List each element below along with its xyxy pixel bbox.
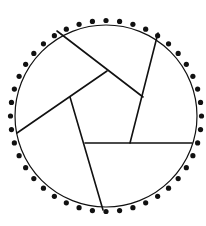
perimeter-dot (41, 41, 46, 46)
perimeter-dot (130, 205, 135, 210)
perimeter-dot (31, 51, 36, 56)
perimeter-dot (52, 33, 57, 38)
perimeter-dot (52, 194, 57, 199)
perimeter-dot (103, 18, 108, 23)
perimeter-dot (23, 62, 28, 67)
perimeter-dot (90, 19, 95, 24)
perimeter-dot (166, 41, 171, 46)
background (0, 0, 206, 226)
perimeter-dot (198, 127, 203, 132)
perimeter-dot (143, 200, 148, 205)
perimeter-dot (12, 140, 17, 145)
perimeter-dot (31, 176, 36, 181)
perimeter-dot (8, 113, 13, 118)
perimeter-dot (176, 51, 181, 56)
perimeter-dot (184, 165, 189, 170)
perimeter-dot (76, 205, 81, 210)
perimeter-dot (143, 27, 148, 32)
perimeter-dot (190, 74, 195, 79)
perimeter-dot (184, 62, 189, 67)
pinwheel-circle-diagram (0, 0, 206, 226)
perimeter-dot (195, 140, 200, 145)
perimeter-dot (12, 86, 17, 91)
perimeter-dot (103, 209, 108, 214)
perimeter-dot (166, 186, 171, 191)
perimeter-dot (117, 19, 122, 24)
perimeter-dot (190, 153, 195, 158)
perimeter-dot (17, 153, 22, 158)
perimeter-dot (90, 208, 95, 213)
perimeter-dot (117, 208, 122, 213)
perimeter-dot (199, 113, 204, 118)
perimeter-dot (64, 27, 69, 32)
perimeter-dot (41, 186, 46, 191)
perimeter-dot (9, 127, 14, 132)
perimeter-dot (155, 194, 160, 199)
perimeter-dot (23, 165, 28, 170)
perimeter-dot (9, 100, 14, 105)
perimeter-dot (130, 22, 135, 27)
perimeter-dot (198, 100, 203, 105)
perimeter-dot (76, 22, 81, 27)
perimeter-dot (64, 200, 69, 205)
perimeter-dot (176, 176, 181, 181)
perimeter-dot (195, 86, 200, 91)
perimeter-dot (17, 74, 22, 79)
